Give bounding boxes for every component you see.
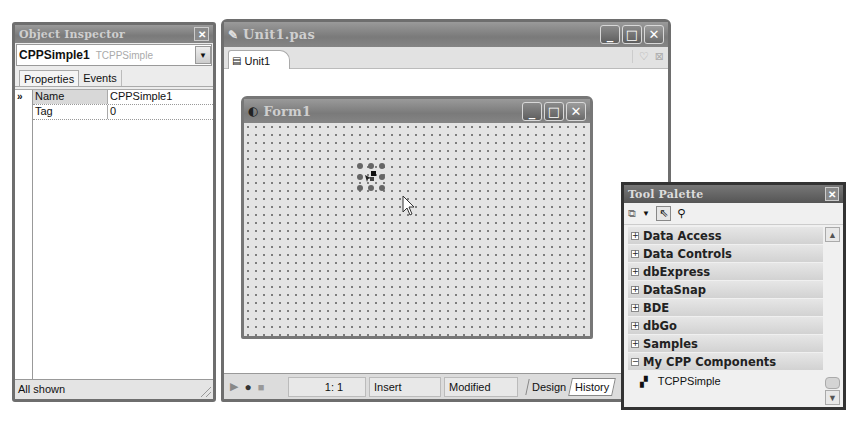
category-dbgo[interactable]: +dbGo [628, 317, 823, 334]
expand-icon: + [631, 250, 639, 258]
selection-handle[interactable] [379, 185, 385, 191]
tab-events[interactable]: Events [79, 70, 122, 86]
scroll-down-icon[interactable]: ▼ [825, 390, 840, 405]
minimize-button[interactable]: _ [600, 25, 620, 44]
category-label: dbGo [643, 319, 677, 333]
tool-palette-window: Tool Palette ✕ ⧉ ▼ ⇖ ⚲ +Data Access +Dat… [621, 182, 846, 410]
expand-marker-icon: » [17, 91, 23, 102]
tab-history[interactable]: History [568, 378, 616, 396]
tool-palette-title: Tool Palette [628, 188, 825, 201]
chevron-down-icon[interactable]: ▼ [642, 209, 650, 218]
selection-handle[interactable] [368, 185, 374, 191]
tool-palette-titlebar[interactable]: Tool Palette ✕ [624, 185, 843, 203]
property-name: Name [33, 90, 108, 104]
category-my-cpp-components[interactable]: −My CPP Components [628, 353, 823, 370]
tab-actions: ♡ ⊠ [632, 50, 664, 63]
editor-window: ✎ Unit1.pas _ □ ✕ ▤ Unit1 ♡ ⊠ ◐ Form1 _ … [221, 19, 671, 402]
category-label: My CPP Components [643, 355, 776, 369]
category-data-access[interactable]: +Data Access [628, 227, 823, 244]
minimize-button[interactable]: _ [522, 102, 542, 121]
edit-file-icon: ✎ [228, 28, 238, 42]
object-inspector-window: Object Inspector ✕ CPPSimple1 TCPPSimple… [12, 22, 216, 402]
modified-state: Modified [444, 377, 518, 397]
selection-handle[interactable] [379, 163, 385, 169]
editor-tabs: ▤ Unit1 ♡ ⊠ [224, 47, 668, 69]
category-label: BDE [643, 301, 669, 315]
property-row-tag[interactable]: Tag 0 [33, 105, 213, 120]
tab-unit1[interactable]: ▤ Unit1 [228, 50, 290, 70]
scroll-up-icon[interactable]: ▲ [825, 227, 840, 242]
form1-titlebar[interactable]: ◐ Form1 _ □ ✕ [244, 99, 590, 123]
selection-handle[interactable] [368, 163, 374, 169]
tab-design[interactable]: Design [525, 379, 572, 395]
category-dbexpress[interactable]: +dbExpress [628, 263, 823, 280]
mouse-pointer-icon [402, 195, 416, 217]
component-tcppsimple[interactable]: ▞ TCPPSimple [628, 371, 823, 391]
maximize-button[interactable]: □ [622, 25, 642, 44]
category-samples[interactable]: +Samples [628, 335, 823, 352]
tab-properties[interactable]: Properties [19, 70, 79, 86]
form-icon: ◐ [248, 104, 258, 118]
category-label: dbExpress [643, 265, 710, 279]
category-label: Samples [643, 337, 698, 351]
chevron-down-icon[interactable]: ▼ [195, 46, 211, 64]
cppsimple-component[interactable] [357, 163, 385, 191]
category-label: Data Access [643, 229, 722, 243]
form1-window[interactable]: ◐ Form1 _ □ ✕ [241, 96, 593, 339]
play-icon[interactable]: ▶ [230, 380, 238, 393]
property-name: Tag [33, 105, 108, 119]
expand-icon: + [631, 322, 639, 330]
object-inspector-status: All shown [15, 379, 213, 399]
property-value[interactable]: 0 [108, 105, 116, 119]
category-bde[interactable]: +BDE [628, 299, 823, 316]
categories-icon[interactable]: ⧉ [628, 207, 636, 220]
selected-object-name: CPPSimple1 [19, 48, 90, 62]
filter-icon[interactable]: ⚲ [677, 207, 685, 220]
selected-object-type: TCPPSimple [96, 50, 195, 61]
expand-icon: + [631, 232, 639, 240]
category-data-controls[interactable]: +Data Controls [628, 245, 823, 262]
editor-titlebar[interactable]: ✎ Unit1.pas _ □ ✕ [224, 22, 668, 47]
form-design-grid[interactable] [244, 123, 590, 336]
component-label: TCPPSimple [658, 375, 721, 387]
category-label: DataSnap [643, 283, 706, 297]
selection-handle[interactable] [379, 174, 385, 180]
inspector-tabs: Properties Events [15, 67, 213, 87]
selection-handle[interactable] [357, 174, 363, 180]
selection-handle[interactable] [357, 163, 363, 169]
palette-categories: +Data Access +Data Controls +dbExpress +… [628, 227, 823, 391]
close-icon[interactable]: ✕ [825, 187, 839, 201]
record-icon[interactable]: ● [244, 380, 251, 394]
insert-mode: Insert [369, 377, 441, 397]
selection-handle[interactable] [357, 185, 363, 191]
close-button[interactable]: ✕ [644, 25, 664, 44]
expand-icon: + [631, 304, 639, 312]
property-row-name[interactable]: Name CPPSimple1 [33, 90, 213, 105]
property-grid: » Name CPPSimple1 Tag 0 [15, 89, 213, 379]
tool-palette-toolbar: ⧉ ▼ ⇖ ⚲ [624, 203, 843, 225]
category-label: Data Controls [643, 247, 732, 261]
view-tabs: Design History [527, 378, 614, 396]
component-icon: ▞ [640, 376, 648, 387]
pointer-tool-icon[interactable]: ⇖ [656, 206, 671, 221]
stop-icon[interactable]: ■ [258, 381, 265, 393]
expand-icon: + [631, 340, 639, 348]
maximize-button[interactable]: □ [544, 102, 564, 121]
close-button[interactable]: ✕ [566, 102, 586, 121]
form-title: Form1 [263, 104, 520, 119]
scroll-thumb[interactable] [825, 377, 840, 389]
tab-label: Unit1 [244, 55, 270, 67]
property-value[interactable]: CPPSimple1 [108, 90, 172, 104]
expand-icon: + [631, 268, 639, 276]
chevron-down-icon[interactable]: ♡ [639, 50, 649, 63]
close-tab-icon[interactable]: ⊠ [655, 50, 664, 63]
status-text: All shown [18, 383, 65, 395]
vertical-scrollbar[interactable]: ▲ ▼ [825, 227, 841, 405]
component-icon [365, 171, 377, 183]
resize-grip-icon[interactable] [199, 385, 211, 397]
category-datasnap[interactable]: +DataSnap [628, 281, 823, 298]
object-inspector-titlebar[interactable]: Object Inspector ✕ [15, 25, 213, 43]
object-selector-combo[interactable]: CPPSimple1 TCPPSimple ▼ [16, 44, 212, 66]
close-icon[interactable]: ✕ [194, 27, 209, 41]
form-designer: ◐ Form1 _ □ ✕ [224, 69, 668, 373]
